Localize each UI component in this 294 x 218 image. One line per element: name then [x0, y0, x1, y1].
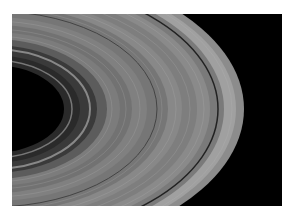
- ring-photograph: [12, 14, 282, 206]
- rings-graphic: [12, 14, 282, 206]
